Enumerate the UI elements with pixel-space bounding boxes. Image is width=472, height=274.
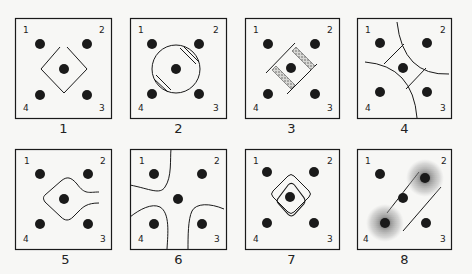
corner-label-3: 3 <box>99 104 105 113</box>
corner-label-2: 2 <box>100 157 106 166</box>
caption-7: 7 <box>243 253 340 266</box>
caption-8: 8 <box>356 253 453 266</box>
caption-3: 3 <box>243 122 340 135</box>
corner-label-2: 2 <box>99 26 105 35</box>
corner-label-1: 1 <box>138 26 144 35</box>
panel-8: 1 2 3 4 <box>357 149 454 250</box>
panel-7: 1 2 3 4 <box>245 149 342 250</box>
corner-label-3: 3 <box>440 104 446 113</box>
corner-label-1: 1 <box>23 26 29 35</box>
corner-label-4: 4 <box>138 104 144 113</box>
corner-label-1: 1 <box>253 157 259 166</box>
panel-6: 1 2 3 4 <box>130 149 227 250</box>
corner-label-4: 4 <box>23 235 29 244</box>
caption-1: 1 <box>15 122 112 135</box>
corner-label-4: 4 <box>253 104 259 113</box>
corner-label-4: 4 <box>23 104 29 113</box>
panel-4-drawing <box>357 18 452 119</box>
corner-label-1: 1 <box>365 157 371 166</box>
corner-label-2: 2 <box>327 157 333 166</box>
corner-label-4: 4 <box>365 104 371 113</box>
corner-label-4: 4 <box>253 235 259 244</box>
caption-2: 2 <box>130 122 227 135</box>
panel-2: 1 2 3 4 <box>130 18 227 119</box>
panel-3: 1 2 3 4 <box>245 18 342 119</box>
corner-label-3: 3 <box>213 104 219 113</box>
corner-label-3: 3 <box>100 235 106 244</box>
corner-label-1: 1 <box>365 26 371 35</box>
corner-label-2: 2 <box>327 26 333 35</box>
panel-5: 1 2 3 4 <box>15 149 112 250</box>
caption-6: 6 <box>130 253 227 266</box>
corner-label-2: 2 <box>440 26 446 35</box>
corner-label-1: 1 <box>24 157 30 166</box>
corner-label-1: 1 <box>139 157 145 166</box>
corner-label-3: 3 <box>214 235 220 244</box>
corner-label-2: 2 <box>213 26 219 35</box>
corner-label-3: 3 <box>327 104 333 113</box>
corner-label-2: 2 <box>441 157 447 166</box>
panel-1: 1 2 3 4 <box>15 18 112 119</box>
panel-4: 1 2 3 4 <box>357 18 454 119</box>
panel-1-drawing <box>15 18 112 119</box>
corner-label-3: 3 <box>440 235 446 244</box>
corner-label-2: 2 <box>214 157 220 166</box>
corner-label-4: 4 <box>363 235 369 244</box>
corner-label-1: 1 <box>253 26 259 35</box>
corner-label-4: 4 <box>138 235 144 244</box>
caption-4: 4 <box>356 122 453 135</box>
corner-label-3: 3 <box>327 235 333 244</box>
caption-5: 5 <box>17 253 114 266</box>
panel-8-drawing <box>357 149 452 250</box>
